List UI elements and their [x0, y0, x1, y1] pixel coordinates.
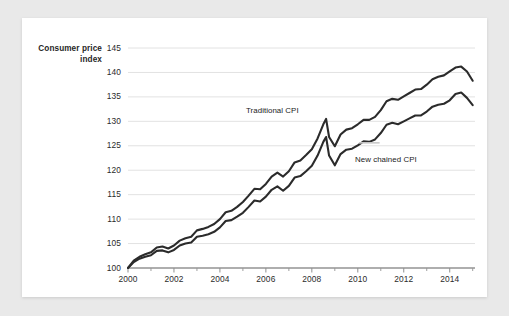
traditional-cpi-label: Traditional CPI	[246, 106, 299, 115]
y-tick-label: 135	[99, 91, 121, 101]
x-axis-ticks	[128, 268, 473, 273]
y-axis-title: Consumer price index	[34, 43, 102, 65]
x-tick-label: 2012	[387, 274, 421, 284]
y-tick-label: 110	[99, 214, 121, 224]
x-tick-label: 2014	[433, 274, 467, 284]
y-tick-label: 120	[99, 165, 121, 175]
x-tick-label: 2006	[249, 274, 283, 284]
x-tick-label: 2008	[295, 274, 329, 284]
x-tick-label: 2000	[111, 274, 145, 284]
y-tick-label: 125	[99, 140, 121, 150]
x-tick-label: 2004	[203, 274, 237, 284]
new-chained-cpi-label: New chained CPI	[355, 155, 417, 164]
x-tick-label: 2002	[157, 274, 191, 284]
screenshot-root: Consumer price index 1001051101151201251…	[0, 0, 509, 316]
x-tick-label: 2010	[341, 274, 375, 284]
y-tick-label: 105	[99, 238, 121, 248]
y-tick-label: 115	[99, 189, 121, 199]
y-tick-label: 100	[99, 263, 121, 273]
y-tick-label: 145	[99, 43, 121, 53]
chart-container: Consumer price index 1001051101151201251…	[0, 0, 509, 316]
y-tick-label: 140	[99, 67, 121, 77]
y-tick-label: 130	[99, 116, 121, 126]
